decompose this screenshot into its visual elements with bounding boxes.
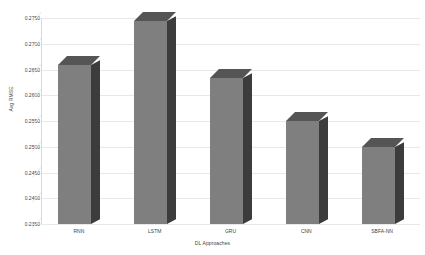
- bar-side-face: [395, 142, 404, 224]
- bar: [210, 78, 243, 224]
- bar-front-face: [58, 65, 91, 224]
- bar-front-face: [134, 21, 167, 224]
- bar: [58, 65, 91, 224]
- bar-side-face: [319, 116, 328, 224]
- bar-chart: Avg RMSE 0.27500.27000.26500.26000.25500…: [0, 0, 425, 255]
- bar-front-face: [286, 121, 319, 224]
- bar-side-face: [91, 61, 100, 224]
- gridline: [41, 44, 420, 45]
- x-axis-tick-label: LSTM: [125, 228, 185, 234]
- plot-area: [41, 18, 420, 224]
- bar-front-face: [210, 78, 243, 224]
- bar: [362, 147, 395, 224]
- x-axis-tick-label: GRU: [201, 228, 261, 234]
- y-axis-line: [41, 18, 42, 224]
- gridline: [41, 224, 420, 225]
- x-axis-tick-label: RNN: [49, 228, 109, 234]
- bar-side-face: [167, 16, 176, 224]
- x-axis-tick-label: SBFA-NN: [352, 228, 412, 234]
- bar: [134, 21, 167, 224]
- x-axis-title: DL Approaches: [0, 240, 425, 246]
- x-axis-tick-label: CNN: [276, 228, 336, 234]
- gridline: [41, 18, 420, 19]
- bar-side-face: [243, 73, 252, 224]
- y-axis-tick-labels: 0.27500.27000.26500.26000.25500.25000.24…: [0, 0, 40, 255]
- bar-front-face: [362, 147, 395, 224]
- bar: [286, 121, 319, 224]
